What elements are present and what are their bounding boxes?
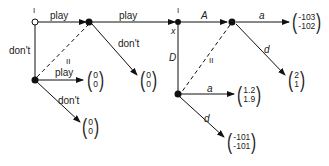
node (86, 19, 93, 26)
edge-label: d (204, 114, 210, 124)
node (32, 77, 39, 84)
edge-d-2 (180, 97, 224, 137)
node-label: x (171, 27, 176, 36)
edge-label: don't (9, 46, 30, 56)
tree-edges (0, 0, 329, 166)
payoff-vector: (00) (86, 69, 105, 91)
edge-label: D (169, 53, 176, 63)
node (175, 19, 181, 25)
payoff-vector: (00) (81, 116, 100, 138)
payoff-vector: (1.21.9) (236, 84, 262, 106)
node (229, 19, 236, 26)
info-set-label: II (66, 58, 70, 66)
player-label: I (33, 7, 35, 15)
payoff-vector: (-103-102) (291, 11, 323, 33)
payoff-vector: (-101-101) (226, 131, 258, 153)
game-tree-diagram: I play don't play don't II play don't I … (0, 0, 329, 166)
info-set-line-2 (181, 25, 230, 93)
edge-label: play (55, 68, 73, 78)
edge-label: don't (58, 96, 79, 106)
edge-label: don't (118, 39, 139, 49)
node (175, 91, 182, 98)
edge-label: A (201, 11, 208, 21)
edge-label: play (50, 11, 68, 21)
payoff-vector: (00) (139, 69, 158, 91)
edge-label: a (207, 84, 213, 94)
edge-d-1 (236, 24, 285, 75)
edge-label: a (259, 11, 265, 21)
edge-label: d (264, 45, 270, 55)
node-hollow (32, 19, 38, 25)
payoff-vector: (21) (287, 69, 306, 91)
edge-label: play (119, 11, 137, 21)
player-label: I (177, 7, 179, 15)
info-set-label: II (209, 57, 213, 65)
